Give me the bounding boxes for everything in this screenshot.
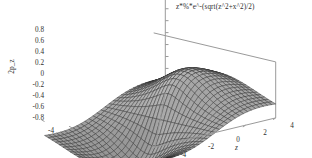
wireframe-mesh [45, 68, 276, 158]
surface-mesh-canvas [0, 0, 312, 158]
surface-plot-figure: z*%*e^-(sqrt(z^2+x^2)/2) 2p_z 0.8 0.6 0.… [0, 0, 312, 158]
